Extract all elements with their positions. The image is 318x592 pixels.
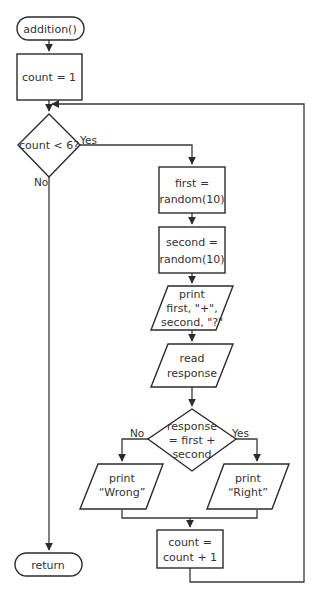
- node-text: response: [167, 367, 217, 380]
- node-text: print: [109, 472, 136, 485]
- node-text: “Right”: [228, 486, 268, 499]
- node-start: addition(): [17, 17, 84, 40]
- node-print-question: print first, "+", second, "?": [151, 286, 233, 330]
- edge-answer-yes: [236, 439, 257, 461]
- edge-merge: [122, 510, 257, 518]
- edge-label-yes: Yes: [79, 134, 97, 146]
- node-text: read: [180, 352, 205, 365]
- node-init: count = 1: [17, 54, 82, 100]
- node-text: second, "?": [161, 316, 223, 329]
- process-shape: [159, 167, 225, 213]
- node-text: first =: [175, 177, 209, 190]
- node-right: print “Right”: [207, 464, 289, 509]
- node-answer-check: response = first + second: [148, 409, 236, 471]
- node-second: second = random(10): [159, 227, 225, 273]
- node-text: count + 1: [163, 551, 217, 564]
- node-text: second: [172, 448, 211, 461]
- node-read: read response: [151, 344, 233, 387]
- node-loop-check: count < 6?: [18, 114, 80, 177]
- node-text: “Wrong”: [99, 486, 146, 499]
- flowchart: addition() count = 1 count < 6? Yes No f…: [0, 0, 318, 592]
- node-text: count = 1: [22, 71, 76, 84]
- node-text: print: [235, 472, 262, 485]
- node-text: count < 6?: [19, 139, 79, 152]
- node-increment: count = count + 1: [157, 530, 223, 568]
- io-shape: [151, 344, 233, 387]
- node-first: first = random(10): [159, 167, 225, 213]
- node-wrong: print “Wrong”: [80, 464, 163, 509]
- node-text: addition(): [23, 23, 76, 36]
- node-text: first, "+",: [166, 302, 217, 315]
- node-text: return: [31, 559, 65, 572]
- edge-label-yes: Yes: [231, 427, 249, 439]
- node-text: second =: [166, 236, 218, 249]
- edge-answer-no: [122, 439, 148, 461]
- node-end: return: [15, 553, 82, 576]
- node-text: response: [167, 420, 217, 433]
- edge-label-no: No: [34, 176, 48, 188]
- node-text: print: [179, 288, 206, 301]
- node-text: random(10): [159, 253, 224, 266]
- node-text: count =: [168, 536, 212, 549]
- node-text: random(10): [159, 193, 224, 206]
- node-text: = first +: [169, 434, 216, 447]
- edge-loop-yes: [80, 145, 192, 164]
- process-shape: [159, 227, 225, 273]
- edge-label-no: No: [130, 427, 144, 439]
